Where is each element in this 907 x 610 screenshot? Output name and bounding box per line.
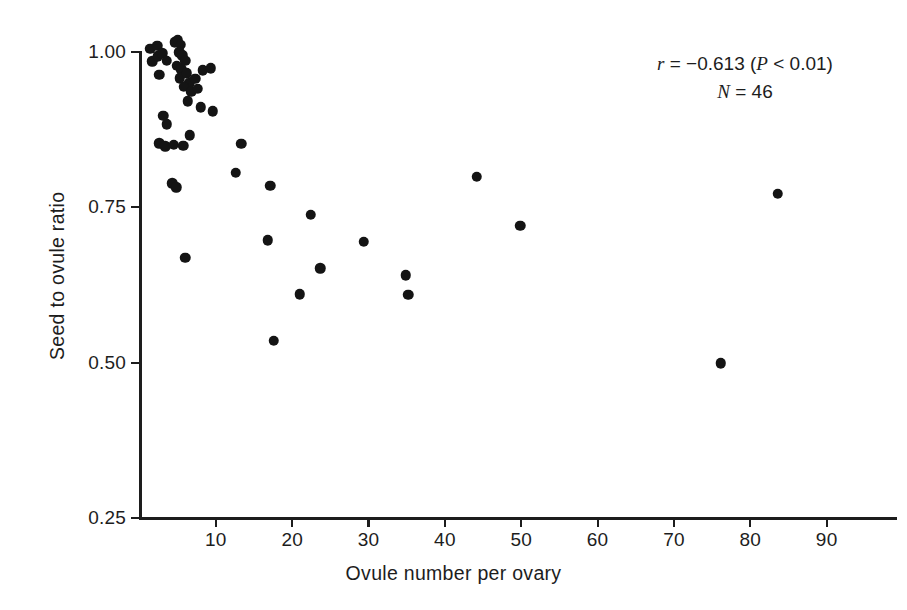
data-point xyxy=(185,130,196,141)
x-tick-label: 40 xyxy=(415,529,475,551)
x-axis-title: Ovule number per ovary xyxy=(0,562,907,585)
data-point xyxy=(715,358,726,369)
data-point xyxy=(192,83,203,94)
x-tick-label: 70 xyxy=(644,529,704,551)
x-tick-label: 60 xyxy=(568,529,628,551)
data-point xyxy=(180,252,191,263)
y-tick-label: 1.00 xyxy=(56,41,126,63)
data-point xyxy=(305,210,316,221)
data-point xyxy=(515,221,526,232)
data-point xyxy=(190,73,201,84)
x-tick-label: 30 xyxy=(339,529,399,551)
x-tick-label: 90 xyxy=(797,529,857,551)
y-tick-mark xyxy=(131,51,139,53)
statistics-annotation: r = −0.613 (P < 0.01) N = 46 xyxy=(610,50,880,105)
data-point xyxy=(472,172,483,183)
data-point xyxy=(263,235,274,246)
x-tick-label: 10 xyxy=(186,529,246,551)
sample-size-line: N = 46 xyxy=(610,78,880,106)
x-tick-label: 80 xyxy=(720,529,780,551)
data-point xyxy=(773,188,784,199)
data-point xyxy=(295,289,306,300)
x-tick-label: 20 xyxy=(262,529,322,551)
x-tick-mark xyxy=(749,519,751,527)
data-point xyxy=(265,180,276,191)
data-point xyxy=(154,70,165,81)
data-point xyxy=(269,336,280,347)
y-tick-mark xyxy=(131,362,139,364)
x-tick-mark xyxy=(826,519,828,527)
x-tick-mark xyxy=(291,519,293,527)
p-symbol: P xyxy=(756,53,768,74)
data-point xyxy=(401,270,412,281)
data-point xyxy=(182,96,193,107)
p-value: < 0.01) xyxy=(768,53,833,74)
x-tick-mark xyxy=(215,519,217,527)
y-tick-mark xyxy=(131,517,139,519)
data-point xyxy=(359,236,370,247)
data-point xyxy=(178,141,189,152)
data-point xyxy=(403,290,414,301)
data-point xyxy=(195,102,206,113)
data-point xyxy=(162,55,173,66)
data-point xyxy=(236,139,247,150)
x-tick-mark xyxy=(673,519,675,527)
x-tick-label: 50 xyxy=(491,529,551,551)
x-tick-mark xyxy=(597,519,599,527)
x-axis-spine xyxy=(139,517,897,520)
data-point xyxy=(171,182,182,193)
y-tick-mark xyxy=(131,206,139,208)
data-point xyxy=(180,55,191,66)
y-axis-title: Seed to ovule ratio xyxy=(46,192,69,360)
data-point xyxy=(315,263,326,274)
x-tick-mark xyxy=(444,519,446,527)
correlation-value: = −0.613 ( xyxy=(664,53,756,74)
data-point xyxy=(162,119,173,130)
data-point xyxy=(205,63,216,74)
y-tick-label: 0.25 xyxy=(56,507,126,529)
data-point xyxy=(208,106,219,117)
n-symbol: N xyxy=(717,81,730,102)
y-axis-spine xyxy=(139,51,142,519)
scatter-plot-figure: 0.250.500.751.00 102030405060708090 Ovul… xyxy=(0,0,907,610)
n-value: = 46 xyxy=(730,81,773,102)
data-point xyxy=(230,167,241,178)
x-tick-mark xyxy=(520,519,522,527)
correlation-line: r = −0.613 (P < 0.01) xyxy=(610,50,880,78)
x-tick-mark xyxy=(367,519,369,527)
